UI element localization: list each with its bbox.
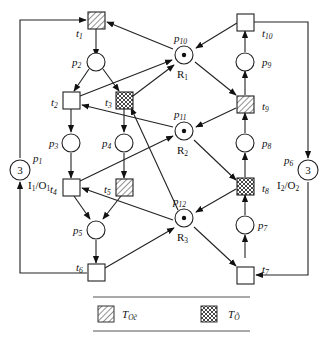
arc-t5-p5 xyxy=(103,196,121,219)
arc-t10-p10 xyxy=(196,23,237,48)
token-count-p6: 3 xyxy=(305,164,311,176)
label-t9: t9 xyxy=(262,100,269,114)
arc-t3-p10 xyxy=(133,65,174,96)
token-p12 xyxy=(182,216,186,220)
arc-t4-p5 xyxy=(74,196,90,219)
legend-swatch-hatched xyxy=(98,306,114,322)
arc-t8-p12 xyxy=(196,189,236,212)
label-t2: t2 xyxy=(51,96,58,110)
arc-p11-t8 xyxy=(194,140,236,180)
label-p11: p11 xyxy=(173,108,186,122)
arc-t6-p12 xyxy=(105,228,174,268)
label-t8: t8 xyxy=(262,182,269,196)
label-t6: t6 xyxy=(76,261,83,275)
legend-label-hatched: TOc̃ xyxy=(122,308,138,322)
label-R2: R2 xyxy=(177,144,188,158)
label-R1: R1 xyxy=(177,68,188,82)
label-R3: R3 xyxy=(177,231,188,245)
label-p3: p3 xyxy=(48,137,59,151)
token-p11 xyxy=(182,129,186,133)
label-p12: p12 xyxy=(172,195,186,209)
arc-t9-p11 xyxy=(196,108,236,127)
arc-p2-t2 xyxy=(74,69,89,91)
transition-t3 xyxy=(116,92,133,109)
label-io1: I1/O1 xyxy=(28,179,50,193)
transition-t2 xyxy=(63,92,80,109)
transition-t10 xyxy=(237,14,254,31)
legend: TOc̃ TÕ xyxy=(93,297,250,331)
place-p2 xyxy=(87,53,105,71)
transitions xyxy=(63,12,254,284)
legend-swatch-crosshatched xyxy=(201,306,217,322)
place-p3 xyxy=(62,134,80,152)
arc-p10-t1 xyxy=(107,22,173,49)
place-p9 xyxy=(236,53,254,71)
place-p4 xyxy=(115,134,133,152)
arc-p12-t7 xyxy=(194,227,236,266)
label-p9: p9 xyxy=(261,56,272,70)
label-p10: p10 xyxy=(173,32,187,46)
label-t1: t1 xyxy=(76,27,83,41)
arc-p10-t9 xyxy=(195,62,236,95)
token-count-p1: 3 xyxy=(17,164,23,176)
label-t4: t4 xyxy=(50,183,57,197)
label-io2: I2/O2 xyxy=(277,179,299,193)
token-p10 xyxy=(182,53,186,57)
legend-label-crosshatched: TÕ xyxy=(228,308,240,322)
transition-t7 xyxy=(237,267,254,284)
label-p1: p1 xyxy=(32,152,42,166)
place-p5 xyxy=(87,221,105,239)
label-p8: p8 xyxy=(261,137,272,151)
transition-t6 xyxy=(88,264,105,281)
place-p8 xyxy=(236,134,254,152)
transition-t9 xyxy=(237,96,254,113)
transition-t4 xyxy=(63,179,80,196)
place-p7 xyxy=(236,216,254,234)
label-p5: p5 xyxy=(72,224,83,238)
label-t3: t3 xyxy=(105,96,112,110)
label-p4: p4 xyxy=(101,137,112,151)
label-t10: t10 xyxy=(262,27,273,41)
petri-net-diagram: 3 3 p2 p1 I1/O1 p3 p4 p5 p6 I2/O2 p7 p8 … xyxy=(0,0,328,343)
label-p2: p2 xyxy=(71,56,82,70)
arc-p12-t3 xyxy=(131,108,178,210)
label-t5: t5 xyxy=(104,183,111,197)
label-t7: t7 xyxy=(262,263,269,277)
label-p7: p7 xyxy=(257,219,268,233)
arc-p2-t3 xyxy=(103,69,119,91)
transition-t8 xyxy=(237,178,254,195)
transition-t1 xyxy=(88,12,105,29)
transition-t5 xyxy=(116,179,133,196)
label-p6: p6 xyxy=(283,154,294,168)
